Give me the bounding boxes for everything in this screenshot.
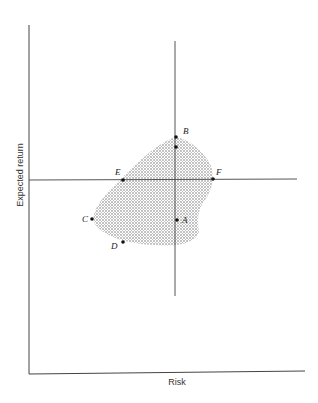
point-b2	[174, 145, 178, 149]
point-f	[211, 177, 215, 181]
y-axis-label: Expected return	[15, 143, 25, 207]
point-label-c: C	[82, 214, 89, 224]
feasible-region	[94, 137, 213, 246]
point-label-b: B	[183, 126, 189, 136]
point-c	[90, 217, 94, 221]
point-b	[174, 135, 178, 139]
point-a	[175, 218, 179, 222]
risk-return-diagram: Risk Expected return BEFCAD	[0, 0, 318, 403]
point-label-a: A	[181, 215, 188, 225]
point-label-e: E	[114, 167, 121, 177]
point-d	[121, 240, 125, 244]
horizontal-reference-line	[29, 179, 297, 180]
point-label-f: F	[215, 167, 222, 177]
x-axis	[29, 371, 305, 374]
point-e	[121, 178, 125, 182]
point-label-d: D	[110, 241, 118, 251]
x-axis-label: Risk	[168, 377, 186, 387]
